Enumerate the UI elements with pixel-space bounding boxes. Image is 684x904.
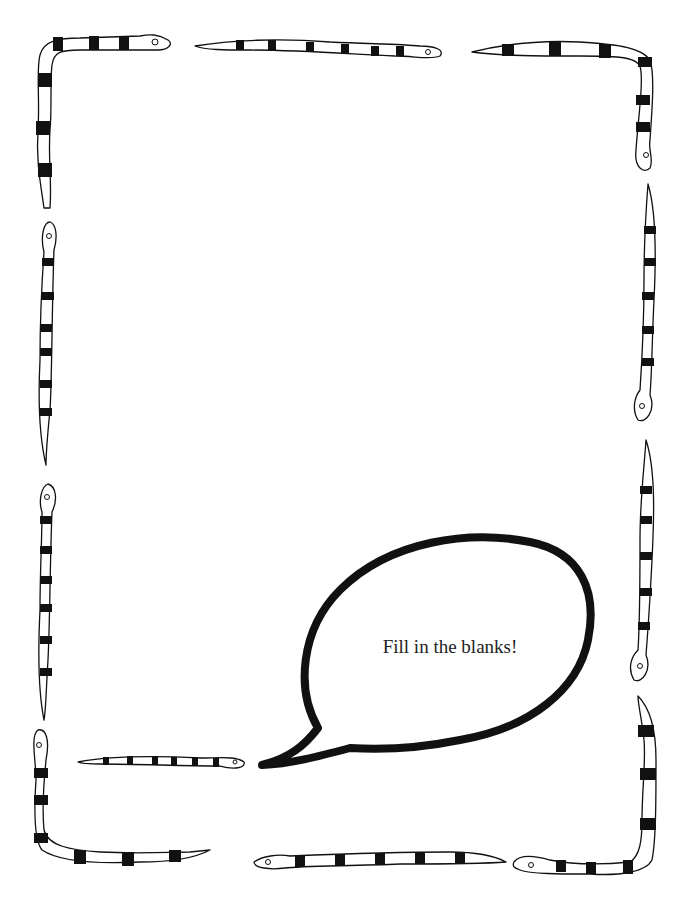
snake-icon [513, 696, 656, 874]
snake-icon [34, 730, 210, 866]
worksheet-page: Fill in the blanks! [0, 0, 684, 904]
snake-icon [195, 40, 441, 58]
snake-icon [254, 852, 506, 869]
snake-icon [39, 222, 56, 465]
snake-icon [634, 184, 656, 421]
snake-icon [39, 484, 56, 720]
snake-icon [36, 35, 170, 208]
snake-icon [472, 42, 653, 171]
snake-icon [631, 440, 654, 681]
bubble-text: Fill in the blanks! [330, 636, 570, 658]
snake-border [0, 0, 684, 904]
snake-icon [78, 756, 244, 768]
